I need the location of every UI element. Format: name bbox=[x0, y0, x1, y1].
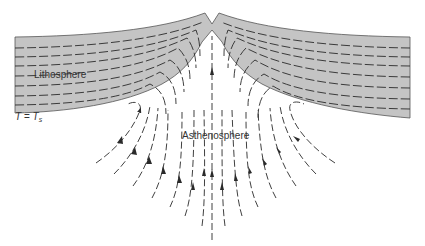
arrow-icon bbox=[117, 136, 123, 144]
arrow-icon bbox=[177, 175, 182, 183]
arrow-icon bbox=[262, 158, 267, 166]
diagram-canvas bbox=[0, 0, 425, 246]
arrow-icon bbox=[234, 173, 238, 181]
arrow-icon bbox=[210, 67, 214, 75]
arrow-icon bbox=[276, 147, 281, 154]
asthenosphere-flow-right bbox=[222, 102, 335, 226]
asthenosphere-label: Asthenosphere bbox=[182, 130, 249, 141]
ridge-diagram: Lithosphere Asthenosphere T = Ts bbox=[0, 0, 425, 246]
arrow-icon bbox=[146, 156, 152, 164]
lithosphere-label: Lithosphere bbox=[34, 69, 86, 80]
arrow-icon bbox=[210, 169, 214, 177]
isotherm-label: T = Ts bbox=[15, 111, 42, 123]
lithosphere-plate bbox=[15, 13, 410, 118]
arrow-icon bbox=[202, 168, 206, 176]
arrow-icon bbox=[293, 136, 300, 142]
arrow-icon bbox=[220, 182, 224, 190]
